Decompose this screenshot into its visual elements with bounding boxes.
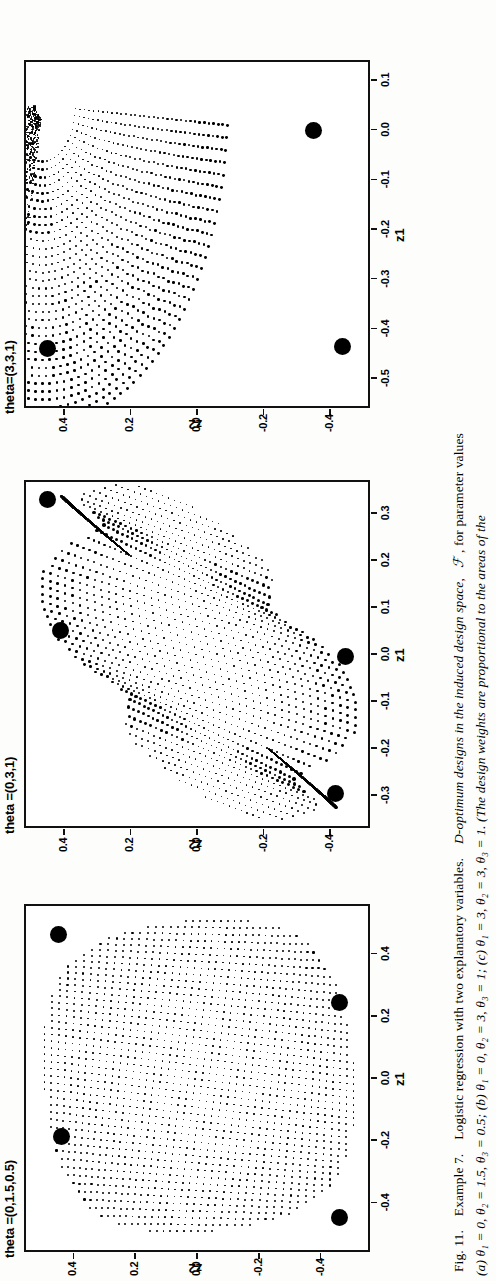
design-grid-dot [137,1093,138,1094]
design-grid-dot [293,632,295,634]
design-grid-dot [91,961,93,963]
design-grid-dot [134,360,137,363]
design-grid-dot [182,1126,183,1127]
design-grid-dot [240,1049,241,1050]
design-grid-dot [116,492,118,494]
design-grid-dot [165,244,168,247]
design-grid-dot [200,516,201,517]
design-grid-dot [276,1095,277,1096]
design-grid-dot [169,142,171,144]
design-grid-dot [195,1134,196,1135]
x-tick-label: -0.3 [379,782,391,808]
design-grid-dot [108,322,110,324]
design-grid-dot [139,1003,141,1005]
design-grid-dot [169,234,172,237]
design-grid-dot [134,1194,136,1196]
design-grid-dot [265,1212,267,1214]
design-grid-dot [232,1055,233,1056]
design-grid-dot [199,920,201,922]
design-grid-dot [166,959,168,961]
design-grid-dot [206,1217,208,1219]
design-grid-dot [79,318,81,320]
design-grid-dot [166,673,167,674]
design-grid-dot [328,740,331,743]
design-grid-dot [101,604,103,606]
design-grid-dot [196,278,199,281]
design-grid-dot [220,983,222,985]
design-grid-dot [120,228,122,230]
design-grid-dot [119,339,122,342]
design-grid-dot [108,141,110,143]
design-grid-dot [142,342,145,345]
design-grid-dot [179,1028,180,1029]
design-grid-dot [335,668,338,671]
design-grid-dot [157,352,160,355]
design-grid-dot [327,1052,329,1054]
design-grid-dot [144,695,146,697]
design-grid-dot [167,280,170,283]
design-grid-dot [145,1017,147,1019]
design-grid-dot [133,1135,135,1137]
design-grid-dot [245,934,247,936]
design-grid-dot [254,1173,256,1175]
design-grid-dot [187,967,189,969]
design-grid-dot [307,807,309,809]
design-grid-dot [136,535,139,538]
design-grid-dot [104,1169,106,1171]
design-grid-dot [179,522,180,523]
design-grid-dot [243,627,245,629]
design-grid-dot [64,577,67,580]
design-grid-dot [173,201,175,203]
design-grid-dot [76,191,78,193]
design-grid-dot [93,1039,95,1041]
design-grid-dot [121,238,123,240]
design-grid-dot [291,655,293,657]
design-grid-dot [229,1138,231,1140]
design-grid-dot [98,513,101,516]
design-grid-dot [249,570,251,572]
design-grid-dot [322,999,324,1001]
design-grid-dot [203,121,206,124]
design-grid-dot [56,582,59,585]
design-grid-dot [260,772,262,774]
design-grid-dot [49,580,52,583]
design-grid-dot [295,802,297,804]
design-grid-dot [302,723,304,725]
design-grid-dot [241,1224,243,1226]
design-grid-dot [113,1133,115,1135]
design-grid-dot [323,1134,325,1136]
design-grid-dot [202,1135,203,1136]
design-grid-dot [312,1085,314,1087]
design-grid-dot [161,1124,162,1125]
design-grid-dot [113,1208,115,1210]
design-grid-dot [286,1143,288,1145]
design-grid-dot [301,1041,303,1043]
design-grid-dot [77,277,79,279]
design-grid-dot [142,302,145,305]
design-grid-dot [87,501,89,503]
design-grid-dot [207,1087,208,1088]
design-grid-dot [188,204,191,207]
design-grid-dot [181,556,182,557]
design-grid-dot [83,141,84,142]
design-grid-dot [248,1035,249,1036]
design-grid-dot [200,613,201,614]
design-grid-dot [93,503,95,505]
design-grid-dot [207,643,208,644]
design-grid-dot [291,1182,293,1184]
design-grid-dot [137,710,140,713]
design-grid-dot [339,727,342,730]
design-grid-dot [140,1065,141,1066]
design-grid-dot [186,156,189,159]
design-grid-dot [176,662,177,663]
y-tick [196,829,198,835]
design-grid-dot [137,957,139,959]
design-grid-dot [185,693,186,694]
design-grid-dot [201,968,203,970]
design-grid-dot [296,1011,298,1013]
design-grid-dot [175,130,177,132]
design-grid-dot [196,1121,197,1122]
design-grid-dot [276,1102,278,1104]
design-grid-dot [116,578,118,580]
design-grid-dot [286,981,288,983]
